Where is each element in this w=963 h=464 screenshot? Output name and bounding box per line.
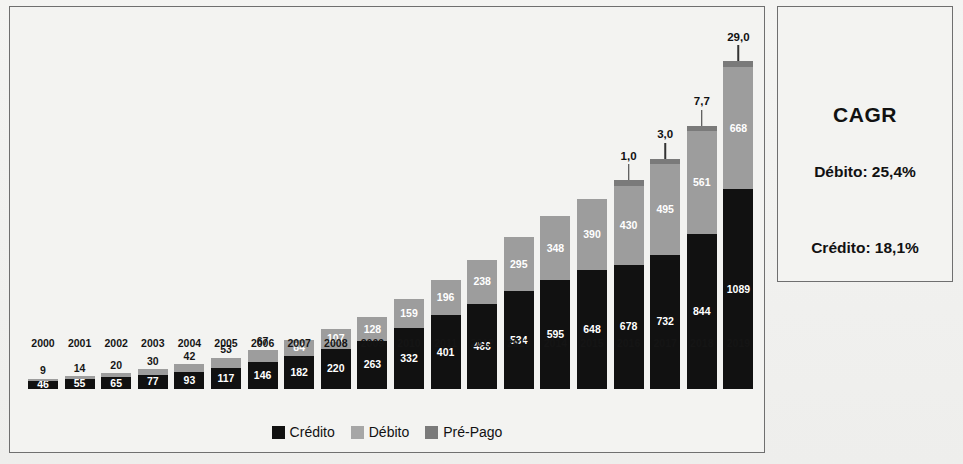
legend-label-credito: Crédito — [290, 424, 335, 440]
prepago-swatch-icon — [425, 426, 438, 439]
bar-label-credito: 77 — [147, 376, 159, 387]
bar-label-debito: 495 — [656, 204, 674, 215]
bar-segment-credito: 732 — [650, 255, 680, 389]
x-axis-tick-label: 2008 — [324, 337, 347, 349]
bar-segment-credito: 65 — [101, 377, 131, 389]
x-axis-tick-label: 2011 — [434, 337, 457, 349]
bar-label-debito: 42 — [184, 351, 196, 362]
bar-segment-credito: 401 — [431, 315, 461, 389]
x-axis-tick-label: 2018 — [690, 337, 713, 349]
bar-segment-credito: 1089 — [723, 189, 753, 389]
x-axis-tick-label: 2010 — [397, 337, 420, 349]
credito-swatch-icon — [272, 426, 285, 439]
legend-label-prepago: Pré-Pago — [443, 424, 502, 440]
bar-segment-credito: 595 — [540, 280, 570, 389]
bar-label-credito: 844 — [693, 306, 711, 317]
stacked-bar-plot: 4692000551420016520200277302003934220041… — [10, 7, 764, 452]
bar-label-credito: 263 — [364, 359, 382, 370]
x-axis-tick-label: 2017 — [654, 337, 677, 349]
prepago-leader-line — [701, 110, 703, 126]
x-axis-tick-label: 2015 — [580, 337, 603, 349]
bar-label-debito: 14 — [74, 363, 86, 374]
bar-label-credito: 648 — [583, 324, 601, 335]
bar-segment-credito: 844 — [687, 234, 717, 389]
legend-item-credito: Crédito — [272, 424, 335, 440]
legend-label-debito: Débito — [369, 424, 409, 440]
bar-label-debito: 668 — [730, 123, 748, 134]
chart-panel: 4692000551420016520200277302003934220041… — [9, 6, 765, 453]
x-axis-tick-label: 2006 — [251, 337, 274, 349]
bar-label-debito: 30 — [147, 356, 159, 367]
bar-segment-credito: 678 — [614, 265, 644, 389]
bar-segment-debito — [138, 369, 168, 375]
bar-label-debito: 561 — [693, 177, 711, 188]
x-axis-tick-label: 2007 — [288, 337, 311, 349]
bar-label-credito: 678 — [620, 321, 638, 332]
bar-label-credito: 146 — [254, 370, 272, 381]
bar-label-debito: 348 — [547, 243, 565, 254]
bar-segment-credito: 117 — [211, 368, 241, 389]
cagr-title: CAGR — [833, 103, 897, 127]
bar-label-debito: 390 — [583, 229, 601, 240]
bar-label-credito: 117 — [218, 373, 235, 384]
debito-swatch-icon — [351, 426, 364, 439]
bar-label-credito: 332 — [400, 353, 418, 364]
bar-segment-debito — [211, 358, 241, 368]
cagr-debito-value: Débito: 25,4% — [814, 163, 916, 181]
x-axis-tick-label: 2013 — [507, 337, 530, 349]
cagr-panel: CAGR Débito: 25,4% Crédito: 18,1% — [777, 6, 953, 282]
bar-label-credito: 732 — [656, 316, 674, 327]
bar-segment-credito: 648 — [577, 270, 607, 389]
bar-segment-prepago — [723, 61, 753, 67]
bar-label-debito: 196 — [437, 292, 455, 303]
bar-segment-credito: 93 — [174, 372, 204, 389]
bar-label-credito: 55 — [74, 378, 86, 389]
bar-label-credito: 93 — [184, 375, 196, 386]
bar-segment-debito — [248, 350, 278, 362]
legend-item-prepago: Pré-Pago — [425, 424, 502, 440]
bar-segment-debito — [65, 376, 95, 379]
x-axis-tick-label: 2012 — [471, 337, 494, 349]
bar-label-debito: 9 — [40, 365, 46, 376]
bar-segment-credito: 55 — [65, 379, 95, 389]
bar-label-debito: 159 — [400, 308, 418, 319]
bar-label-debito: 20 — [110, 360, 122, 371]
x-axis-tick-label: 2014 — [544, 337, 567, 349]
bar-segment-credito: 146 — [248, 362, 278, 389]
prepago-leader-line — [738, 45, 740, 61]
x-axis-tick-label: 2009 — [361, 337, 384, 349]
x-axis-tick-label: 2005 — [214, 337, 237, 349]
bar-segment-credito: 220 — [321, 349, 351, 389]
x-axis-tick-label: 2019 — [727, 337, 750, 349]
chart-legend: Crédito Débito Pré-Pago — [10, 424, 764, 440]
x-axis-tick-label: 2001 — [68, 337, 91, 349]
bar-label-prepago: 1,0 — [621, 151, 637, 163]
x-axis-tick-label: 2004 — [178, 337, 201, 349]
bar-segment-credito: 182 — [284, 356, 314, 389]
bar-label-debito: 128 — [364, 324, 382, 335]
cagr-credito-value: Crédito: 18,1% — [811, 239, 919, 257]
bar-label-credito: 182 — [290, 367, 308, 378]
bar-label-prepago: 3,0 — [657, 129, 673, 141]
bar-segment-credito: 77 — [138, 375, 168, 389]
x-axis-tick-label: 2002 — [105, 337, 128, 349]
bar-label-credito: 220 — [327, 363, 345, 374]
prepago-leader-line — [628, 164, 630, 180]
x-axis-tick-label: 2016 — [617, 337, 640, 349]
prepago-leader-line — [664, 143, 666, 159]
bar-label-debito: 295 — [510, 259, 528, 270]
bar-segment-debito — [101, 373, 131, 377]
x-axis-tick-label: 2000 — [31, 337, 54, 349]
bar-segment-debito — [174, 364, 204, 372]
bar-label-prepago: 29,0 — [727, 32, 749, 44]
x-axis-tick-label: 2003 — [141, 337, 164, 349]
bar-label-credito: 65 — [110, 378, 122, 389]
bar-segment-prepago — [650, 159, 680, 165]
bar-segment-credito: 46 — [28, 381, 58, 389]
bar-segment-prepago — [687, 126, 717, 132]
bar-segment-debito — [28, 379, 58, 381]
bar-segment-prepago — [614, 180, 644, 186]
bar-label-credito: 1089 — [727, 284, 750, 295]
bar-label-prepago: 7,7 — [694, 96, 710, 108]
legend-item-debito: Débito — [351, 424, 409, 440]
